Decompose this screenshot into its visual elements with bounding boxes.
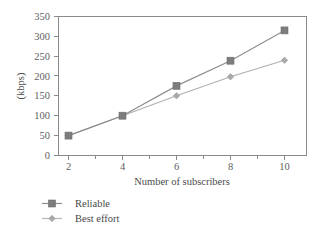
legend-label-reliable: Reliable xyxy=(75,198,110,209)
x-tick-label-8: 8 xyxy=(228,161,233,172)
x-tick-label-2: 2 xyxy=(66,161,71,172)
reliable-point-6 xyxy=(173,82,180,89)
legend-label-best-effort: Best effort xyxy=(75,213,120,224)
x-tick-label-10: 10 xyxy=(279,161,290,172)
x-tick-label-6: 6 xyxy=(174,161,179,172)
y-tick-label-200: 200 xyxy=(34,71,50,82)
x-tick-label-4: 4 xyxy=(120,161,126,172)
y-axis-title: (kbps) xyxy=(15,72,27,99)
y-tick-label-250: 250 xyxy=(34,51,50,62)
y-tick-label-350: 350 xyxy=(34,11,50,22)
reliable-point-8 xyxy=(227,57,234,64)
y-tick-label-300: 300 xyxy=(34,31,50,42)
y-tick-label-50: 50 xyxy=(40,130,51,141)
y-tick-label-100: 100 xyxy=(34,110,50,121)
line-chart-svg: 0 50 100 150 200 250 300 350 2 4 6 8 xyxy=(0,0,322,232)
reliable-point-4 xyxy=(119,112,126,119)
legend-marker-square-icon xyxy=(49,200,56,207)
chart-figure: 0 50 100 150 200 250 300 350 2 4 6 8 xyxy=(0,0,322,232)
reliable-point-2 xyxy=(65,132,72,139)
y-tick-label-150: 150 xyxy=(34,90,50,101)
reliable-point-10 xyxy=(281,27,288,34)
y-tick-label-0: 0 xyxy=(45,150,50,161)
x-axis-title: Number of subscribers xyxy=(134,176,230,187)
